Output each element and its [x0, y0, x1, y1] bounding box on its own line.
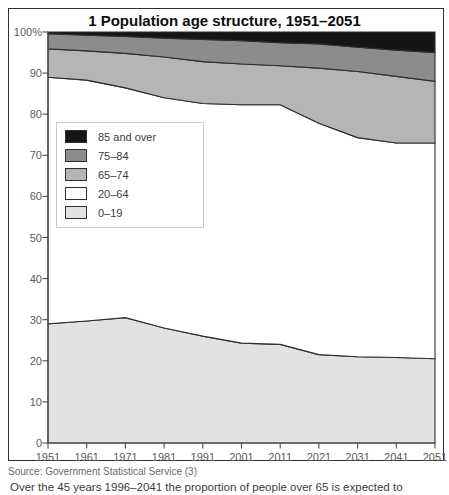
y-tick-label: 70 [0, 149, 42, 161]
x-tick-label: 1951 [28, 451, 68, 463]
legend-label: 65–74 [98, 169, 129, 181]
chart-legend: 85 and over 75–84 65–74 20–64 0–19 [56, 122, 204, 228]
y-tick-label: 60 [0, 190, 42, 202]
legend-label: 0–19 [98, 207, 122, 219]
legend-swatch [65, 130, 87, 143]
x-tick-label: 1961 [67, 451, 107, 463]
y-tick-label: 30 [0, 314, 42, 326]
legend-swatch [65, 206, 87, 219]
x-tick-label: 2011 [260, 451, 300, 463]
legend-item-0-19: 0–19 [57, 203, 203, 222]
y-tick-label: 50 [0, 232, 42, 244]
legend-swatch [65, 149, 87, 162]
caption-text: Over the 45 years 1996–2041 the proporti… [10, 481, 445, 495]
x-tick-label: 1991 [183, 451, 223, 463]
legend-label: 20–64 [98, 188, 129, 200]
population-age-structure-chart [0, 0, 449, 495]
legend-label: 85 and over [98, 131, 156, 143]
legend-item-65-74: 65–74 [57, 165, 203, 184]
x-tick-label: 1971 [105, 451, 145, 463]
source-text: Source: Government Statistical Service (… [8, 466, 197, 477]
y-tick-label: 40 [0, 273, 42, 285]
x-tick-label: 2021 [299, 451, 339, 463]
x-tick-label: 2031 [338, 451, 378, 463]
y-tick-label: 20 [0, 355, 42, 367]
legend-swatch [65, 187, 87, 200]
y-tick-label: 10 [0, 396, 42, 408]
x-tick-label: 1981 [144, 451, 184, 463]
y-tick-label: 80 [0, 108, 42, 120]
legend-item-75-84: 75–84 [57, 146, 203, 165]
y-tick-label: 0 [0, 437, 42, 449]
x-tick-label: 2041 [376, 451, 416, 463]
legend-item-85-and-over: 85 and over [57, 127, 203, 146]
x-tick-label: 2001 [222, 451, 262, 463]
legend-label: 75–84 [98, 150, 129, 162]
y-tick-label: 90 [0, 67, 42, 79]
x-tick-label: 2051 [415, 451, 449, 463]
legend-swatch [65, 168, 87, 181]
y-tick-label: 100% [0, 26, 42, 38]
legend-item-20-64: 20–64 [57, 184, 203, 203]
